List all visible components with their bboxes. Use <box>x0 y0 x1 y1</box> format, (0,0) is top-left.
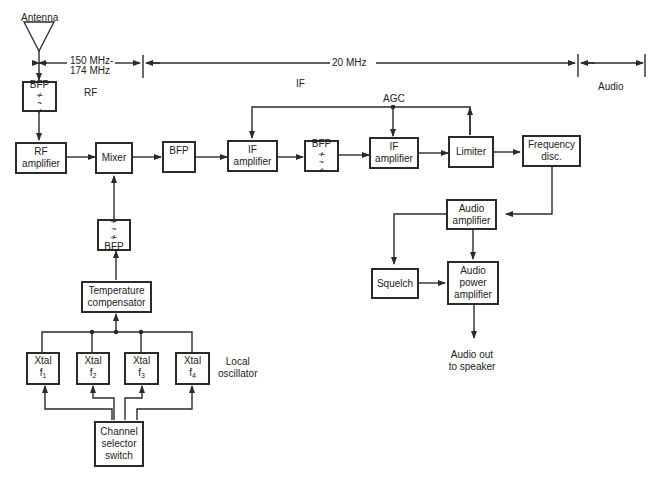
channel-sel-line1: Channel <box>100 426 137 438</box>
rf-amplifier-line1: RF <box>34 146 47 158</box>
xtal-f1-sub: 1 <box>42 372 46 379</box>
audio-out-line1: Audio out <box>448 349 496 361</box>
bfp-rf-label: BFP <box>30 79 49 91</box>
bfp-lo-label: BFP <box>104 241 123 253</box>
freq-disc-line1: Frequency <box>528 139 575 151</box>
mixer-block: Mixer <box>95 142 133 174</box>
xtal-f1-block: Xtal f1 <box>26 352 60 385</box>
xtal-f3-line1: Xtal <box>133 355 150 367</box>
if-amplifier-2-line1: IF <box>390 141 399 153</box>
rf-band-range-line2: 174 MHz <box>70 66 113 76</box>
rf-section-label: RF <box>84 87 97 99</box>
bfp-if1-label: BFP <box>169 145 188 157</box>
bfp-if2-block: BFP ≁~≁ <box>304 140 339 172</box>
filter-symbol-icon: ≁~≁ <box>110 217 118 241</box>
xtal-f4-sub: 4 <box>192 372 196 379</box>
bfp-lo-block: ≁~≁ BFP <box>97 219 131 251</box>
squelch-block: Squelch <box>371 268 419 299</box>
temp-comp-line1: Temperature <box>88 285 144 297</box>
local-osc-line2: oscillator <box>218 368 257 380</box>
xtal-f4-line1: Xtal <box>184 355 201 367</box>
audio-amplifier-block: Audio amplifier <box>446 199 497 230</box>
antenna-icon <box>24 22 54 51</box>
rf-amplifier-line2: amplifier <box>22 158 60 170</box>
rf-amplifier-block: RF amplifier <box>15 142 67 174</box>
if-amplifier-2-block: IF amplifier <box>369 137 419 169</box>
mixer-label: Mixer <box>102 152 126 164</box>
temperature-compensator-block: Temperature compensator <box>81 281 152 313</box>
local-osc-line1: Local <box>218 356 257 368</box>
audio-power-amplifier-block: Audio power amplifier <box>447 261 499 305</box>
audio-pwr-line2: power <box>459 277 486 289</box>
if-section-label: IF <box>296 78 305 90</box>
if-band-frequency: 20 MHz <box>332 57 366 69</box>
local-oscillator-label: Local oscillator <box>218 356 257 380</box>
audio-output-label: Audio out to speaker <box>448 349 496 373</box>
audio-pwr-line3: amplifier <box>454 289 492 301</box>
agc-label: AGC <box>383 93 405 105</box>
limiter-label: Limiter <box>456 146 486 158</box>
xtal-f3-sub: 3 <box>141 372 145 379</box>
filter-symbol-icon: ≁~≁ <box>318 150 326 174</box>
audio-amp-line2: amplifier <box>453 215 491 227</box>
frequency-discriminator-block: Frequency disc. <box>522 135 581 167</box>
if-amplifier-1-line1: IF <box>248 144 257 156</box>
bfp-rf-block: BFP ≁~≁ <box>22 81 57 112</box>
filter-symbol-icon: ≁~≁ <box>36 91 44 115</box>
if-amplifier-2-line2: amplifier <box>375 153 413 165</box>
channel-sel-line2: selector <box>101 438 136 450</box>
if-amplifier-1-block: IF amplifier <box>227 140 278 172</box>
channel-selector-switch-block: Channel selector switch <box>94 421 144 467</box>
xtal-f2-sub: 2 <box>92 372 96 379</box>
squelch-label: Squelch <box>377 278 413 290</box>
temp-comp-line2: compensator <box>88 297 146 309</box>
xtal-f1-line1: Xtal <box>34 355 51 367</box>
xtal-f2-line1: Xtal <box>84 355 101 367</box>
bfp-if1-block: BFP <box>162 141 196 173</box>
if-amplifier-1-line2: amplifier <box>234 156 272 168</box>
audio-out-line2: to speaker <box>448 361 496 373</box>
audio-section-label: Audio <box>598 81 624 93</box>
xtal-f2-block: Xtal f2 <box>76 352 110 385</box>
audio-amp-line1: Audio <box>459 203 485 215</box>
audio-pwr-line1: Audio <box>460 265 486 277</box>
xtal-f3-block: Xtal f3 <box>124 352 159 385</box>
fm-receiver-diagram: Antenna 150 MHz- 174 MHz 20 MHz RF IF Au… <box>0 0 659 480</box>
channel-sel-line3: switch <box>105 450 133 462</box>
rf-band-range: 150 MHz- 174 MHz <box>70 56 113 76</box>
limiter-block: Limiter <box>448 136 494 168</box>
xtal-f4-block: Xtal f4 <box>175 352 210 385</box>
freq-disc-line2: disc. <box>541 151 562 163</box>
